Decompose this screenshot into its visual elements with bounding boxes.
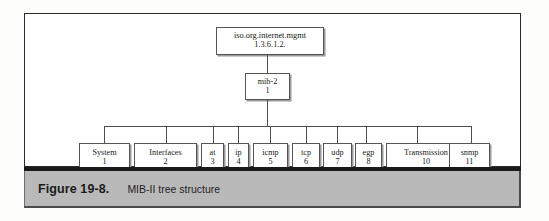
connector-bus-drop-egp — [366, 126, 367, 143]
tree-node-udp-number: 7 — [335, 158, 339, 167]
tree-node-egp-number: 8 — [366, 158, 370, 167]
figure-caption-band: Figure 19-8. MIB-II tree structure — [24, 171, 521, 208]
tree-node-at-number: 3 — [210, 158, 214, 167]
connector-bus-drop-at — [213, 126, 214, 143]
tree-node-mib2-number: 1 — [265, 87, 269, 96]
scanned-page: iso.org.internet.mgmt 1.3.6.1.2. mib-2 1 — [0, 0, 549, 221]
tree-node-tcp-number: 6 — [304, 158, 308, 167]
connector-bus-drop-system — [104, 126, 105, 143]
tree-node-snmp-number: 11 — [466, 158, 474, 167]
tree-node-root: iso.org.internet.mgmt 1.3.6.1.2. — [216, 27, 324, 55]
connector-root-to-mib2 — [267, 55, 268, 73]
figure-caption-number: Figure 19-8. — [38, 182, 109, 196]
tree-node-system-number: 1 — [102, 158, 106, 167]
figure-caption-text: MIB-II tree structure — [127, 183, 220, 195]
tree-node-transmission-number: 10 — [422, 158, 430, 167]
connector-bus-drop-interfaces — [166, 126, 167, 143]
mib-tree-diagram: iso.org.internet.mgmt 1.3.6.1.2. mib-2 1 — [25, 14, 522, 168]
connector-bus-drop-icmp — [270, 126, 271, 143]
connector-mib2-to-bus — [267, 100, 268, 126]
tree-node-mib2: mib-2 1 — [245, 73, 290, 100]
figure-frame: iso.org.internet.mgmt 1.3.6.1.2. mib-2 1 — [24, 13, 521, 167]
connector-bus-drop-snmp — [471, 126, 472, 143]
connector-bus — [104, 126, 471, 127]
connector-bus-drop-tcp — [306, 126, 307, 143]
tree-node-icmp-number: 5 — [268, 158, 272, 167]
connector-bus-drop-udp — [337, 126, 338, 143]
tree-node-interfaces-number: 2 — [163, 158, 167, 167]
tree-node-ip-number: 4 — [236, 158, 240, 167]
connector-bus-drop-transmission — [417, 126, 418, 143]
tree-node-root-number: 1.3.6.1.2. — [254, 41, 285, 50]
connector-bus-drop-ip — [238, 126, 239, 143]
